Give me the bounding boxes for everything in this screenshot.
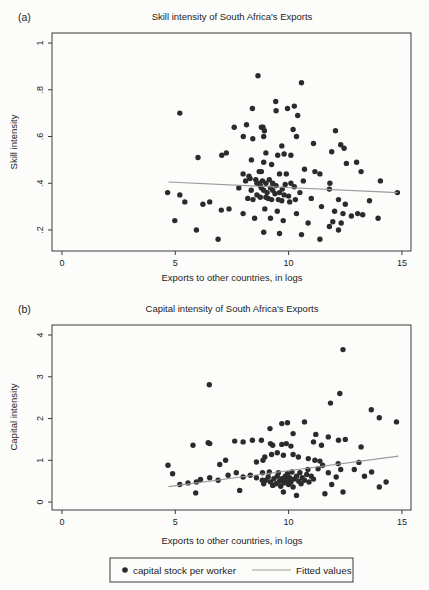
data-point bbox=[261, 134, 266, 139]
data-point bbox=[358, 169, 363, 174]
data-point bbox=[279, 143, 284, 148]
y-tick-label: 1 bbox=[35, 458, 45, 463]
data-point bbox=[275, 209, 280, 214]
data-point bbox=[177, 110, 182, 115]
data-point bbox=[284, 441, 289, 446]
data-point bbox=[270, 443, 275, 448]
data-point bbox=[375, 216, 380, 221]
panel-a-letter: (a) bbox=[18, 11, 31, 23]
data-point bbox=[334, 474, 339, 479]
data-point bbox=[193, 490, 198, 495]
data-point bbox=[255, 73, 260, 78]
data-point bbox=[262, 454, 267, 459]
panel-b-letter: (b) bbox=[18, 303, 31, 315]
x-tick-label: 10 bbox=[284, 517, 294, 527]
y-tick-label: .2 bbox=[35, 226, 45, 234]
data-point bbox=[279, 421, 284, 426]
data-point bbox=[329, 149, 334, 154]
data-point bbox=[277, 190, 282, 195]
x-tick-label: 5 bbox=[173, 517, 178, 527]
data-point bbox=[319, 204, 324, 209]
data-point bbox=[294, 211, 299, 216]
data-point bbox=[343, 437, 348, 442]
data-point bbox=[369, 469, 374, 474]
panel-b-y-axis-label: Capital intensity bbox=[8, 383, 19, 450]
data-point bbox=[217, 462, 222, 467]
data-point bbox=[190, 443, 195, 448]
data-point bbox=[165, 463, 170, 468]
data-point bbox=[332, 209, 337, 214]
data-point bbox=[311, 476, 316, 481]
data-point bbox=[294, 493, 299, 498]
data-point bbox=[299, 80, 304, 85]
panel-a-points bbox=[165, 73, 400, 242]
data-point bbox=[232, 438, 237, 443]
data-point bbox=[250, 438, 255, 443]
data-point bbox=[290, 431, 295, 436]
data-point bbox=[244, 122, 249, 127]
data-point bbox=[273, 99, 278, 104]
data-point bbox=[249, 188, 254, 193]
data-point bbox=[273, 108, 278, 113]
data-point bbox=[340, 347, 345, 352]
data-point bbox=[207, 475, 212, 480]
data-point bbox=[281, 453, 286, 458]
data-point bbox=[292, 103, 297, 108]
x-tick-label: 0 bbox=[59, 258, 64, 268]
data-point bbox=[172, 218, 177, 223]
data-point bbox=[245, 196, 250, 201]
data-point bbox=[286, 193, 291, 198]
legend: capital stock per worker Fitted values bbox=[110, 558, 353, 582]
y-tick-label: 4 bbox=[35, 333, 45, 338]
data-point bbox=[259, 438, 264, 443]
data-point bbox=[311, 439, 316, 444]
data-point bbox=[394, 419, 399, 424]
data-point bbox=[377, 415, 382, 420]
data-point bbox=[275, 153, 280, 158]
data-point bbox=[281, 218, 286, 223]
data-point bbox=[320, 463, 325, 468]
data-point bbox=[281, 151, 286, 156]
figure-container: (a) Skill intensity of South Africa's Ex… bbox=[0, 0, 429, 590]
data-point bbox=[250, 197, 255, 202]
data-point bbox=[336, 197, 341, 202]
data-point bbox=[311, 141, 316, 146]
data-point bbox=[367, 198, 372, 203]
data-point bbox=[264, 190, 269, 195]
data-point bbox=[240, 211, 245, 216]
data-point bbox=[293, 197, 298, 202]
y-tick-label: 0 bbox=[35, 500, 45, 505]
data-point bbox=[263, 150, 268, 155]
data-point bbox=[337, 391, 342, 396]
panel-a-plot-area bbox=[52, 33, 411, 251]
data-point bbox=[219, 207, 224, 212]
data-point bbox=[237, 488, 242, 493]
y-tick-label: .8 bbox=[35, 86, 45, 94]
data-point bbox=[182, 199, 187, 204]
data-point bbox=[269, 452, 274, 457]
data-point bbox=[339, 220, 344, 225]
data-point bbox=[294, 134, 299, 139]
panel-b-x-axis-label: Exports to other countries, in logs bbox=[162, 535, 303, 546]
data-point bbox=[170, 471, 175, 476]
data-point bbox=[261, 230, 266, 235]
data-point bbox=[312, 458, 317, 463]
data-point bbox=[284, 171, 289, 176]
data-point bbox=[328, 400, 333, 405]
data-point bbox=[254, 475, 259, 480]
data-point bbox=[247, 176, 252, 181]
data-point bbox=[327, 181, 332, 186]
data-point bbox=[223, 458, 228, 463]
data-point bbox=[195, 155, 200, 160]
data-point bbox=[306, 479, 311, 484]
data-point bbox=[309, 196, 314, 201]
data-point bbox=[207, 441, 212, 446]
data-point bbox=[240, 439, 245, 444]
y-tick-label: 3 bbox=[35, 374, 45, 379]
data-point bbox=[232, 125, 237, 130]
data-point bbox=[349, 213, 354, 218]
data-point bbox=[319, 443, 324, 448]
data-point bbox=[277, 231, 282, 236]
panel-a-title: Skill intensity of South Africa's Export… bbox=[152, 11, 313, 22]
data-point bbox=[305, 220, 310, 225]
